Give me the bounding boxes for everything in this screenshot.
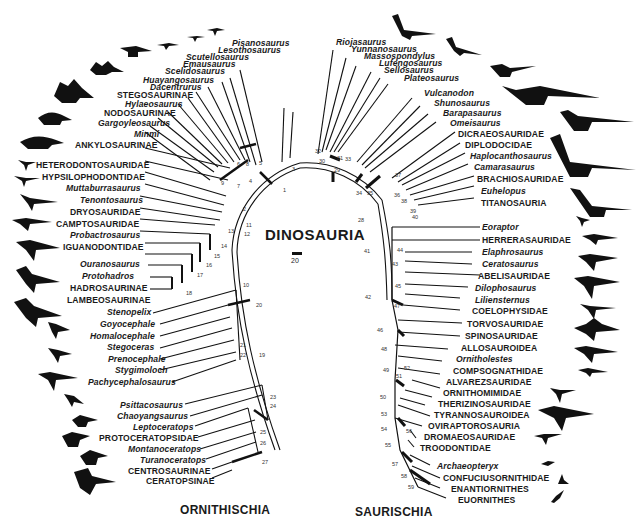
node-number: 35 [367, 190, 373, 196]
clade-saurischia: SAURISCHIA [355, 505, 433, 519]
taxon-label: CERATOPSINAE [146, 476, 215, 486]
node-number: 29 [334, 167, 340, 173]
taxon-label: DRYOSAURIDAE [70, 207, 141, 217]
taxon-label: BRACHIOSAURIDAE [477, 174, 564, 184]
taxon-label: Shunosaurus [434, 98, 490, 108]
taxon-label: TYRANNOSAUROIDEA [434, 410, 530, 420]
theropod-icon [576, 250, 620, 272]
node-number: 55 [385, 442, 391, 448]
pachycephalosaur-icon [44, 318, 72, 340]
sauropod-icon [548, 132, 638, 178]
taxon-label: Stygimoloch [115, 365, 168, 375]
taxon-label: COMPSOGNATHIDAE [453, 366, 543, 376]
node-number: 42 [365, 294, 371, 300]
node-number: 24 [270, 403, 276, 409]
taxon-label: LAMBEOSAURINAE [67, 295, 151, 305]
node-number: 49 [383, 367, 389, 373]
node-number: 26 [260, 440, 266, 446]
taxon-label: Plateosaurus [404, 73, 459, 83]
stegosaur-icon [50, 76, 96, 104]
node-number: 19 [259, 352, 265, 358]
node-number: 27 [262, 459, 268, 465]
taxon-label: PROTOCERATOPSIDAE [99, 433, 199, 443]
node-number: 14 [221, 243, 227, 249]
taxon-label: TORVOSAURIDAE [467, 319, 543, 329]
taxon-label: SPINOSAURIDAE [465, 331, 538, 341]
taxon-label: EUORNITHES [458, 495, 515, 505]
node-number: 30 [319, 158, 325, 164]
taxon-label: Montanoceratops [128, 444, 201, 454]
taxon-label: IGUANODONTIDAE [63, 242, 144, 252]
node-number: 31 [337, 155, 343, 161]
taxon-label: Stenopelix [107, 307, 151, 317]
taxon-label: Barapasaurus [443, 108, 502, 118]
node-number: 41 [364, 248, 370, 254]
node-number: 9 [221, 180, 224, 186]
node-number: 23 [270, 394, 276, 400]
node-number: 48 [381, 346, 387, 352]
node-number: 16 [206, 262, 212, 268]
hadrosaur-icon [12, 264, 62, 294]
taxon-label: Ouranosaurus [80, 259, 140, 269]
node-number: 11 [246, 222, 252, 228]
ornithopod-small-icon [205, 24, 227, 38]
taxon-label: ORNITHOMIMIDAE [443, 388, 521, 398]
theropod-icon [576, 364, 610, 378]
taxon-label: Chaoyangsaurus [117, 411, 188, 421]
node-number: 6 [237, 161, 240, 167]
node-number: 36 [394, 192, 400, 198]
node-number: 47 [394, 303, 400, 309]
taxon-label: Haplocanthosaurus [470, 151, 552, 161]
taxon-label: Vulcanodon [424, 88, 474, 98]
prosauropod-icon [444, 35, 484, 57]
ceratopsian-icon [70, 412, 100, 428]
taxon-label: ABELISAURIDAE [478, 271, 550, 281]
ceratopsian-icon [62, 390, 86, 408]
ankylosaur-icon [34, 106, 74, 126]
taxon-label: HERRERASAURIDAE [482, 235, 571, 245]
taxon-label: Pachycephalosaurus [88, 377, 176, 387]
ceratopsian-icon [70, 466, 118, 496]
theropod-icon [572, 342, 620, 364]
sauropod-icon [488, 60, 538, 78]
scale-bar-label: 20 [291, 257, 299, 264]
taxon-label: Protohadros [82, 271, 134, 281]
taxon-label: Muttaburrasaurus [66, 183, 141, 193]
node-number: 22 [240, 352, 246, 358]
stegosaur-icon [86, 58, 126, 76]
node-number: 2 [243, 206, 246, 212]
node-number: 40 [412, 214, 418, 220]
node-number: 15 [214, 253, 220, 259]
node-number: 58 [401, 473, 407, 479]
pachycephalosaur-icon [46, 344, 74, 364]
ornithopod-small-icon [185, 31, 207, 45]
tyrannosaur-icon [536, 402, 596, 432]
taxon-label: NODOSAURINAE [104, 108, 176, 118]
theropod-icon [574, 212, 592, 228]
node-number: 44 [397, 247, 403, 253]
taxon-label: TITANOSAURIA [481, 198, 547, 208]
theropod-icon [578, 300, 618, 320]
taxon-label: ENANTIORNITHES [451, 484, 529, 494]
ornithopod-small-icon [155, 39, 181, 51]
node-number: 25 [260, 429, 266, 435]
node-number: 38 [401, 198, 407, 204]
taxon-label: CAMPTOSAURIDAE [56, 219, 139, 229]
bird-icon [540, 458, 556, 468]
node-number: 12 [244, 231, 250, 237]
cladogram-figure: DINOSAURIA 20 ORNITHISCHIA SAURISCHIA Pi… [0, 0, 640, 530]
taxon-label: HETERODONTOSAURIDAE [36, 160, 149, 170]
clade-ornithischia: ORNITHISCHIA [180, 503, 270, 517]
ceratopsian-icon [60, 430, 92, 448]
ceratopsian-icon [78, 448, 110, 466]
node-number: 4 [249, 178, 252, 184]
theropod-icon [548, 384, 578, 404]
taxon-label: Psittacosaurus [120, 400, 183, 410]
taxon-label: Goyocephale [100, 319, 155, 329]
taxon-label: COELOPHYSIDAE [472, 306, 548, 316]
taxon-label: Minmi [134, 129, 159, 139]
taxon-label: Camarasaurus [474, 162, 535, 172]
taxon-label: CONFUCIUSORNITHIDAE [443, 473, 549, 483]
taxon-label: Prenocephale [108, 354, 166, 364]
node-number: 32 [315, 148, 321, 154]
